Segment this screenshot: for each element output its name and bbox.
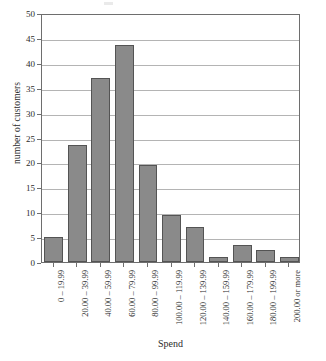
y-tick-label: 45: [5, 34, 35, 44]
y-tick-label: 0: [5, 258, 35, 268]
bar: [209, 257, 228, 262]
y-tick-mark: [37, 263, 41, 264]
x-tick-label: 80.00 – 99.99: [150, 270, 160, 317]
y-axis-title: number of customers: [12, 48, 22, 198]
plot-area: [41, 14, 300, 263]
y-tick-label: 20: [5, 158, 35, 168]
x-tick-mark: [241, 263, 242, 267]
x-tick-label: 0 – 19.99: [56, 270, 66, 302]
bar: [44, 237, 63, 262]
y-tick-label: 30: [5, 109, 35, 119]
y-tick-label: 40: [5, 59, 35, 69]
y-tick-label: 25: [5, 134, 35, 144]
y-tick-label: 15: [5, 183, 35, 193]
x-tick-mark: [194, 263, 195, 267]
x-tick-mark: [171, 263, 172, 267]
y-tick-label: 35: [5, 84, 35, 94]
x-tick-label: 160.00 – 179.99: [245, 270, 255, 325]
y-tick-label: 50: [5, 9, 35, 19]
bar: [68, 145, 87, 262]
x-tick-label: 60.00 – 79.99: [127, 270, 137, 317]
x-tick-mark: [218, 263, 219, 267]
x-tick-label: 100.00 – 119.99: [174, 270, 184, 325]
x-tick-label: 200.00 or more: [292, 270, 302, 322]
bar: [162, 215, 181, 262]
bar: [280, 257, 299, 262]
y-tick-label: 10: [5, 208, 35, 218]
x-tick-mark: [288, 263, 289, 267]
bar: [256, 250, 275, 262]
bar: [139, 165, 158, 262]
x-tick-label: 180.00 – 199.99: [268, 270, 278, 325]
x-tick-mark: [265, 263, 266, 267]
x-tick-mark: [123, 263, 124, 267]
x-tick-mark: [76, 263, 77, 267]
x-tick-label: 140.00 – 159.99: [221, 270, 231, 325]
bars-layer: [42, 15, 299, 262]
bar: [186, 227, 205, 262]
bar: [91, 78, 110, 262]
bar: [115, 45, 134, 262]
x-tick-mark: [100, 263, 101, 267]
bar: [233, 245, 252, 262]
scan-artifact: [104, 2, 113, 5]
x-axis-title: Spend: [41, 338, 300, 349]
x-tick-label: 20.00 – 39.99: [80, 270, 90, 317]
y-tick-label: 5: [5, 233, 35, 243]
x-tick-mark: [147, 263, 148, 267]
x-tick-mark: [53, 263, 54, 267]
x-tick-label: 120.00 – 139.99: [198, 270, 208, 325]
x-tick-label: 40.00 – 59.99: [103, 270, 113, 317]
histogram-figure: number of customers 05101520253035404550…: [0, 0, 326, 361]
